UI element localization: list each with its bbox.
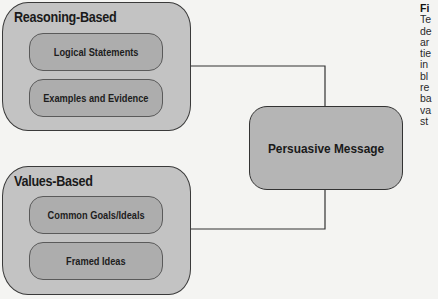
caption-line: st	[420, 116, 438, 127]
group-reasoning-based: Reasoning-Based Logical Statements Examp…	[2, 2, 191, 131]
item-logical-statements: Logical Statements	[29, 33, 163, 71]
group-title: Reasoning-Based	[14, 9, 116, 25]
figure-caption-clipped: Fi Te de ar tie in bl re ba va st	[420, 3, 438, 127]
group-values-based: Values-Based Common Goals/Ideals Framed …	[2, 166, 191, 295]
item-examples-and-evidence: Examples and Evidence	[29, 79, 163, 117]
item-framed-ideas: Framed Ideas	[29, 242, 163, 280]
caption-line: ba	[420, 93, 438, 104]
item-label: Examples and Evidence	[43, 92, 148, 104]
connector-reasoning-to-message	[190, 66, 325, 106]
group-title: Values-Based	[14, 173, 93, 189]
item-label: Logical Statements	[54, 46, 139, 58]
node-persuasive-message: Persuasive Message	[249, 106, 403, 190]
node-label: Persuasive Message	[268, 141, 384, 156]
connector-values-to-message	[190, 189, 325, 229]
item-label: Framed Ideas	[66, 255, 126, 267]
item-common-goals-ideals: Common Goals/Ideals	[29, 196, 163, 234]
caption-line: Te	[420, 14, 438, 25]
item-label: Common Goals/Ideals	[47, 209, 144, 221]
